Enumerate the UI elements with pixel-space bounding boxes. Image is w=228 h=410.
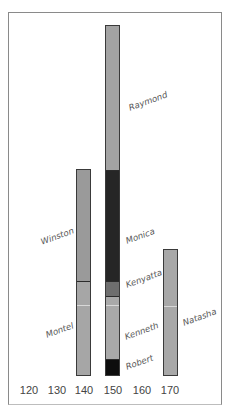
- x-tick-150: 150: [104, 384, 122, 396]
- x-tick-170: 170: [161, 384, 179, 396]
- x-tick-130: 130: [48, 384, 66, 396]
- segment-monica: [106, 170, 119, 281]
- bar-170: [163, 249, 178, 376]
- segment-winston: [77, 170, 90, 281]
- segment-kenneth: [106, 296, 119, 359]
- segment-robert: [106, 359, 119, 375]
- bar-140: [76, 169, 91, 376]
- x-tick-120: 120: [20, 384, 38, 396]
- segment-highlight-line: [77, 305, 90, 306]
- segment-natasha: [164, 250, 177, 375]
- segment-raymond: [106, 26, 119, 170]
- segment-highlight-line: [164, 306, 177, 307]
- x-tick-160: 160: [133, 384, 151, 396]
- segment-kenyatta: [106, 281, 119, 296]
- bar-150: [105, 25, 120, 376]
- x-tick-140: 140: [75, 384, 93, 396]
- segment-montel: [77, 281, 90, 375]
- segment-highlight-line: [106, 305, 119, 306]
